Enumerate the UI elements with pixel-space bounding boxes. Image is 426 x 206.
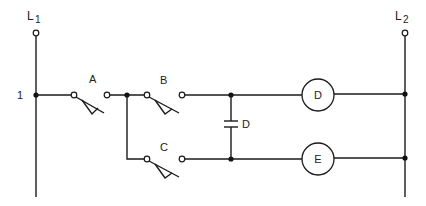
l2-terminal <box>402 30 408 36</box>
rung-number: 1 <box>17 89 23 101</box>
contact-d: D <box>224 95 250 159</box>
l1-terminal <box>33 30 39 36</box>
contact-d-label: D <box>242 118 250 130</box>
coil-e-label: E <box>314 153 321 165</box>
coil-d-label: D <box>314 89 322 101</box>
coil-e: E <box>302 143 334 175</box>
switch-b: B <box>144 74 185 114</box>
switch-a-label: A <box>89 73 97 85</box>
switch-c: C <box>144 141 185 178</box>
l1-label: L <box>27 9 34 23</box>
l2-sub: 2 <box>403 14 409 25</box>
switch-c-label: C <box>160 141 168 153</box>
node <box>402 91 407 96</box>
switch-b-label: B <box>160 74 167 86</box>
switch-a: A <box>71 73 110 114</box>
ladder-diagram: L 1 L 2 1 A B D C <box>0 0 426 206</box>
coil-d: D <box>302 79 334 111</box>
l2-label: L <box>395 9 402 23</box>
wire-branch <box>127 95 144 159</box>
node <box>402 155 407 160</box>
l1-sub: 1 <box>35 14 41 25</box>
